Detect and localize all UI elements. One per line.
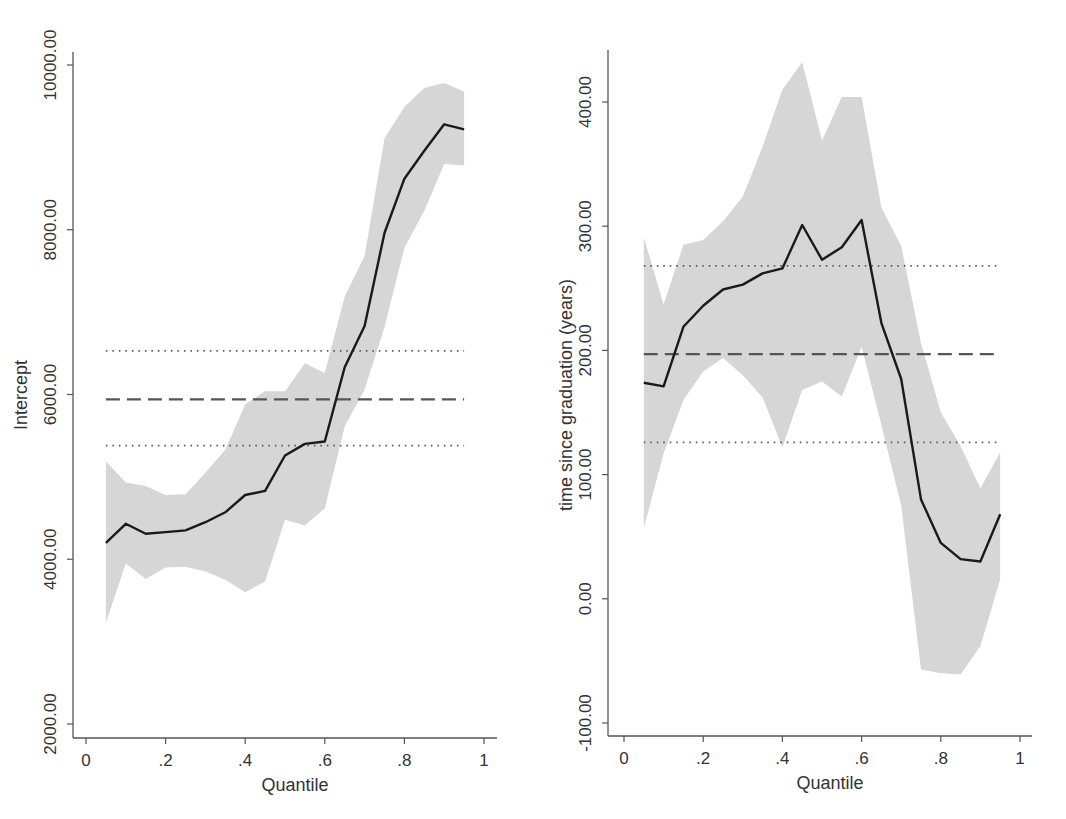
x-tick-label: 0 — [81, 751, 90, 770]
x-tick-label: .6 — [855, 749, 869, 768]
y-tick-label: 8000.00 — [41, 199, 60, 260]
x-tick-label: .2 — [696, 749, 710, 768]
time-since-graduation-x-axis-title: Quantile — [796, 773, 863, 793]
intercept-confidence-band — [106, 83, 464, 623]
y-tick-label: 4000.00 — [41, 529, 60, 590]
y-tick-label: 200.00 — [576, 324, 595, 376]
x-tick-label: 1 — [1015, 749, 1024, 768]
x-tick-label: .8 — [934, 749, 948, 768]
y-tick-label: 6000.00 — [41, 364, 60, 425]
x-tick-label: .2 — [159, 751, 173, 770]
x-tick-label: .4 — [775, 749, 789, 768]
y-tick-label: 300.00 — [576, 200, 595, 252]
y-tick-label: 400.00 — [576, 76, 595, 128]
time-since-graduation-panel: 0.2.4.6.81-100.000.00100.00200.00300.004… — [556, 50, 1032, 793]
x-tick-label: 0 — [619, 749, 628, 768]
time-since-graduation-confidence-band — [644, 62, 1000, 674]
x-tick-label: .4 — [238, 751, 252, 770]
y-tick-label: 100.00 — [576, 449, 595, 501]
x-tick-label: 1 — [479, 751, 488, 770]
time-since-graduation-y-axis-title: time since graduation (years) — [556, 279, 576, 511]
x-tick-label: .8 — [397, 751, 411, 770]
intercept-x-axis-title: Quantile — [261, 775, 328, 795]
x-tick-label: .6 — [318, 751, 332, 770]
y-tick-label: 10000.00 — [41, 30, 60, 101]
figure-canvas: 0.2.4.6.812000.004000.006000.008000.0010… — [0, 0, 1066, 819]
y-tick-label: 2000.00 — [41, 693, 60, 754]
y-tick-label: -100.00 — [576, 694, 595, 752]
y-tick-label: 0.00 — [576, 582, 595, 615]
intercept-panel: 0.2.4.6.812000.004000.006000.008000.0010… — [11, 30, 497, 795]
intercept-y-axis-title: Intercept — [11, 360, 31, 430]
